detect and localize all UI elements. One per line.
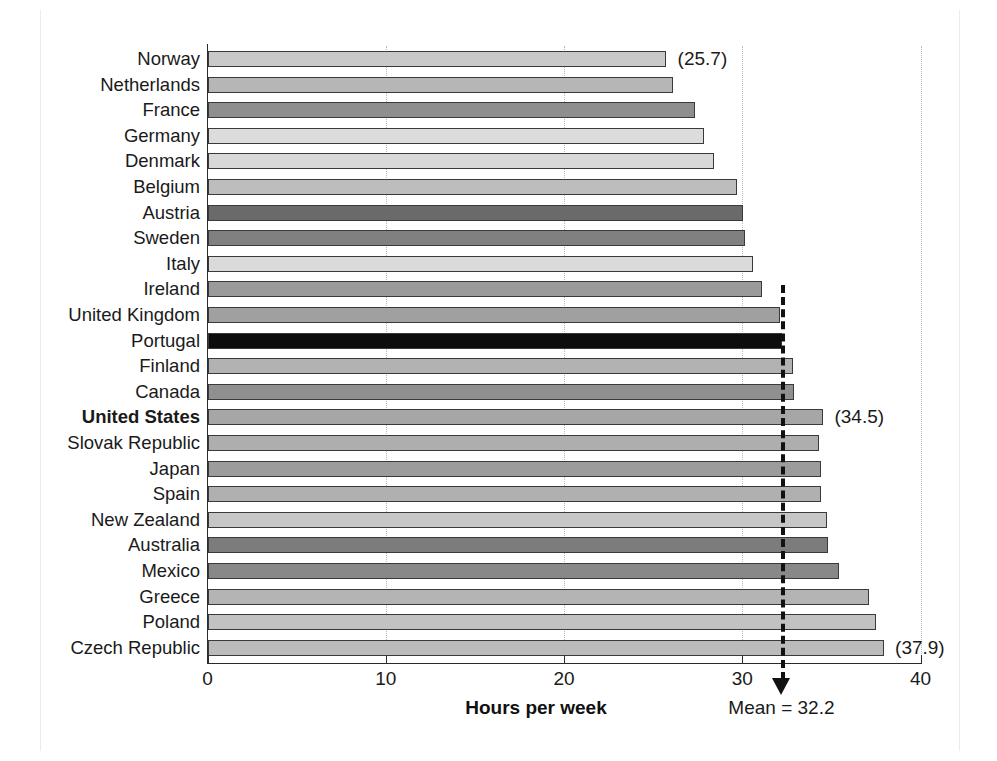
bar-austria xyxy=(208,205,743,221)
category-label-poland: Poland xyxy=(4,611,200,632)
category-label-denmark: Denmark xyxy=(4,150,200,171)
mean-dashed-line xyxy=(781,285,785,680)
bar-row: Ireland xyxy=(0,278,997,302)
category-label-new-zealand: New Zealand xyxy=(4,509,200,530)
category-label-slovak-republic: Slovak Republic xyxy=(4,432,200,453)
category-label-greece: Greece xyxy=(4,586,200,607)
bar-chart-plot-area: Norway(25.7)NetherlandsFranceGermanyDenm… xyxy=(0,0,997,761)
bar-netherlands xyxy=(208,77,673,93)
bar-row: Mexico xyxy=(0,560,997,584)
x-tick-10 xyxy=(386,655,387,664)
category-label-france: France xyxy=(4,99,200,120)
bar-row: Sweden xyxy=(0,227,997,251)
category-label-united-states: United States xyxy=(4,406,200,427)
bar-mexico xyxy=(208,563,839,579)
bar-row: Spain xyxy=(0,483,997,507)
bar-row: United States(34.5) xyxy=(0,406,997,430)
bar-row: Germany xyxy=(0,125,997,149)
category-label-mexico: Mexico xyxy=(4,560,200,581)
category-label-finland: Finland xyxy=(4,355,200,376)
mean-arrow-icon xyxy=(772,678,790,695)
bar-australia xyxy=(208,537,828,553)
bar-germany xyxy=(208,128,704,144)
chart-figure: Norway(25.7)NetherlandsFranceGermanyDenm… xyxy=(0,0,997,761)
category-label-austria: Austria xyxy=(4,202,200,223)
mean-label: Mean = 32.2 xyxy=(728,697,834,719)
bar-united-states xyxy=(208,409,823,425)
category-label-norway: Norway xyxy=(4,48,200,69)
bar-portugal xyxy=(208,333,782,349)
bar-slovak-republic xyxy=(208,435,819,451)
bar-denmark xyxy=(208,153,714,169)
bar-japan xyxy=(208,461,821,477)
category-label-canada: Canada xyxy=(4,381,200,402)
bar-row: Norway(25.7) xyxy=(0,48,997,72)
bar-row: Czech Republic(37.9) xyxy=(0,637,997,661)
x-tick-label-40: 40 xyxy=(910,668,931,690)
x-tick-0 xyxy=(208,655,209,664)
category-label-czech-republic: Czech Republic xyxy=(4,637,200,658)
x-tick-label-20: 20 xyxy=(553,668,574,690)
bar-row: Slovak Republic xyxy=(0,432,997,456)
bar-sweden xyxy=(208,230,745,246)
bar-greece xyxy=(208,589,869,605)
bar-row: New Zealand xyxy=(0,509,997,533)
value-label-united-states: (34.5) xyxy=(834,406,884,427)
category-label-united-kingdom: United Kingdom xyxy=(4,304,200,325)
bar-italy xyxy=(208,256,753,272)
x-axis-title: Hours per week xyxy=(465,697,607,719)
bar-row: Australia xyxy=(0,534,997,558)
category-label-netherlands: Netherlands xyxy=(4,74,200,95)
value-label-norway: (25.7) xyxy=(678,48,728,69)
category-label-germany: Germany xyxy=(4,125,200,146)
x-tick-label-10: 10 xyxy=(375,668,396,690)
category-label-sweden: Sweden xyxy=(4,227,200,248)
category-label-portugal: Portugal xyxy=(4,330,200,351)
category-label-ireland: Ireland xyxy=(4,278,200,299)
bar-canada xyxy=(208,384,794,400)
bar-row: Japan xyxy=(0,458,997,482)
bar-poland xyxy=(208,614,876,630)
bar-row: Austria xyxy=(0,202,997,226)
bar-row: Finland xyxy=(0,355,997,379)
x-tick-label-0: 0 xyxy=(202,668,213,690)
bar-row: Netherlands xyxy=(0,74,997,98)
category-label-australia: Australia xyxy=(4,534,200,555)
bar-france xyxy=(208,102,695,118)
bar-row: Portugal xyxy=(0,330,997,354)
x-tick-40 xyxy=(921,655,922,664)
bar-finland xyxy=(208,358,793,374)
bar-norway xyxy=(208,51,666,67)
bar-row: Denmark xyxy=(0,150,997,174)
bar-row: Canada xyxy=(0,381,997,405)
category-label-japan: Japan xyxy=(4,458,200,479)
bar-row: Belgium xyxy=(0,176,997,200)
bar-row: Greece xyxy=(0,586,997,610)
x-tick-label-30: 30 xyxy=(732,668,753,690)
category-label-belgium: Belgium xyxy=(4,176,200,197)
category-label-italy: Italy xyxy=(4,253,200,274)
category-label-spain: Spain xyxy=(4,483,200,504)
bar-row: France xyxy=(0,99,997,123)
y-axis-line xyxy=(207,44,208,664)
x-tick-20 xyxy=(564,655,565,664)
bar-united-kingdom xyxy=(208,307,780,323)
bar-ireland xyxy=(208,281,762,297)
bar-row: United Kingdom xyxy=(0,304,997,328)
bar-belgium xyxy=(208,179,737,195)
bar-spain xyxy=(208,486,821,502)
x-tick-30 xyxy=(742,655,743,664)
bar-new-zealand xyxy=(208,512,827,528)
bar-row: Poland xyxy=(0,611,997,635)
bar-row: Italy xyxy=(0,253,997,277)
